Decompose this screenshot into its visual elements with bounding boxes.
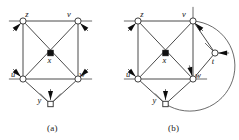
vertex-label-w: w — [195, 70, 201, 80]
arrowhead-y-10 — [163, 91, 168, 100]
panel-a-caption: (a) — [47, 123, 58, 133]
vertex-label-x: x — [162, 55, 167, 65]
vertex-label-y: y — [37, 95, 42, 105]
panel-b-caption: (b) — [168, 123, 179, 133]
vertex-label-v: v — [67, 9, 71, 19]
vertex-label-u: u — [126, 69, 130, 79]
vertex-label-x: x — [47, 55, 52, 65]
vertex-y[interactable] — [163, 101, 168, 106]
vertex-v[interactable] — [190, 18, 196, 24]
panel-a-vertices: zvxuwy — [11, 9, 85, 107]
panel-b: zvxtuwy — [124, 7, 235, 111]
vertex-y[interactable] — [48, 101, 53, 106]
vertex-label-y: y — [152, 95, 157, 105]
vertex-u[interactable] — [20, 76, 26, 82]
vertex-label-u: u — [11, 69, 15, 79]
vertex-v[interactable] — [75, 18, 81, 24]
edge-v-t — [195, 24, 213, 51]
figure-container: zvxuwyzvxtuwy (a) (b) — [0, 0, 239, 140]
half-edge-y-10 — [53, 93, 61, 101]
panel-a: zvxuwy — [9, 9, 92, 107]
vertex-label-w: w — [79, 69, 85, 79]
arrowhead-t-8 — [218, 51, 227, 56]
arrowhead-y-8 — [48, 91, 53, 100]
vertex-label-v: v — [182, 9, 186, 19]
vertex-label-z: z — [139, 9, 144, 19]
edge-y-w — [168, 81, 190, 101]
graph-canvas: zvxuwyzvxtuwy — [0, 0, 239, 140]
vertex-u[interactable] — [135, 76, 141, 82]
vertex-label-z: z — [24, 9, 29, 19]
edge-v-y — [166, 21, 235, 111]
vertex-label-t: t — [212, 56, 215, 66]
